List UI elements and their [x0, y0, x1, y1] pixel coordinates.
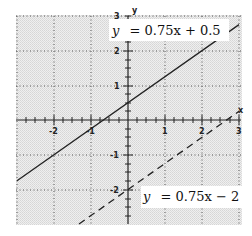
svg-text:3: 3 — [114, 12, 120, 21]
svg-text:-1: -1 — [110, 151, 119, 160]
x-axis-label: x — [238, 106, 244, 115]
svg-text:2: 2 — [199, 127, 205, 136]
svg-text:1: 1 — [114, 82, 120, 91]
svg-text:-2: -2 — [49, 127, 58, 136]
svg-text:2: 2 — [114, 47, 120, 56]
svg-text:-1: -1 — [86, 127, 95, 136]
svg-text:1: 1 — [162, 127, 168, 136]
line-chart: y = 0.75x + 0.5 y = 0.75x − 2 -2 -1 1 2 … — [0, 0, 252, 236]
svg-text:3: 3 — [236, 127, 242, 136]
svg-text:-2: -2 — [110, 186, 119, 195]
y-axis-label: y — [132, 6, 138, 15]
